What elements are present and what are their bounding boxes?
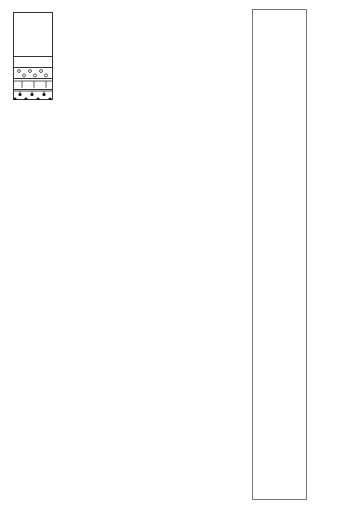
legend-item-actinopterygii (13, 56, 57, 67)
legend-item-reptiles (13, 34, 57, 45)
legend-item-sarcopterygii (13, 78, 57, 89)
legend-item-birds (13, 23, 57, 34)
birds-swatch (13, 23, 53, 34)
legend (13, 12, 57, 100)
circle-pattern-icon (14, 68, 52, 78)
dot-pattern-icon (14, 90, 52, 100)
legend-item-chondrichthyes (13, 67, 57, 78)
actinopterygii-swatch (13, 56, 53, 67)
lampreys-swatch (13, 89, 53, 100)
amphibians-swatch (13, 45, 53, 56)
taxon-color-bar (252, 9, 307, 500)
legend-item-amphibians (13, 45, 57, 56)
legend-item-lampreys (13, 89, 57, 100)
legend-item-mammals (13, 12, 57, 23)
tick-pattern-icon (14, 79, 52, 89)
reptiles-swatch (13, 34, 53, 45)
sarcopterygii-swatch (13, 78, 53, 89)
mammals-swatch (13, 12, 53, 23)
chondrichthyes-swatch (13, 67, 53, 78)
